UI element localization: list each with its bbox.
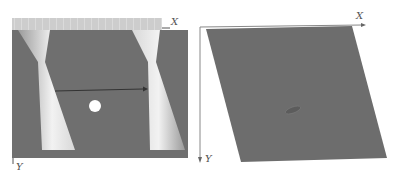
figure-canvas: [0, 0, 396, 182]
left-x-axis-label: X: [171, 17, 178, 27]
circular-inclusion: [89, 100, 101, 112]
right-y-axis-label: Y: [205, 154, 212, 164]
left-panel: [12, 18, 188, 164]
top-hatched-strip: [12, 18, 162, 30]
right-panel: [198, 23, 387, 163]
sheared-domain: [206, 26, 387, 162]
left-y-axis-label: Y: [16, 162, 23, 172]
y-axis-arrow-icon: [198, 157, 202, 163]
x-axis-arrow-icon: [361, 23, 366, 27]
right-x-axis-label: X: [356, 11, 363, 21]
